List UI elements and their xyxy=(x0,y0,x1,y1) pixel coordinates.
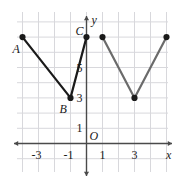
x-tick-label-neg1: -1 xyxy=(64,149,74,161)
origin-label: O xyxy=(90,130,99,142)
coordinate-plane-figure: -3 -1 1 3 5 3 1 x y O A B C xyxy=(0,0,181,184)
point-label-a: A xyxy=(13,43,20,55)
x-axis-label: x xyxy=(166,149,171,161)
x-tick-label-3: 3 xyxy=(132,149,138,161)
y-axis-label: y xyxy=(92,14,97,26)
x-tick-label-neg3: -3 xyxy=(32,149,42,161)
point-label-c: C xyxy=(76,25,84,37)
graph-canvas xyxy=(0,0,181,184)
y-tick-label-5: 5 xyxy=(77,62,83,74)
point-label-b: B xyxy=(60,103,67,115)
x-tick-label-1: 1 xyxy=(100,149,106,161)
y-tick-label-1: 1 xyxy=(77,122,83,134)
y-tick-label-3: 3 xyxy=(77,92,83,104)
